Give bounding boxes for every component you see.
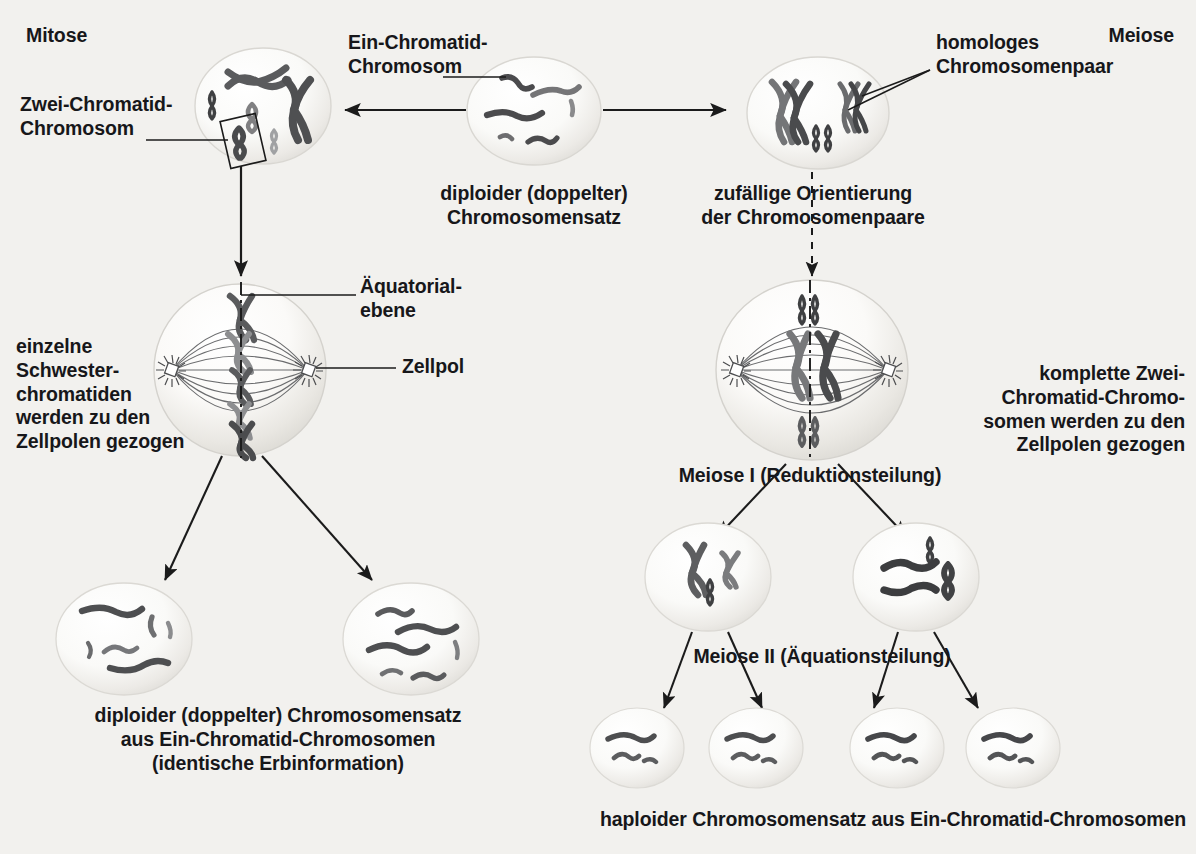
label-einzelne-schwesterchromatiden: einzelne Schwester- chromatiden werden z… [16,335,184,454]
label-homologes-chromosomenpaar: homologes Chromosomenpaar [936,31,1113,79]
label-komplette-zwei-chromatid: komplette Zwei- Chromatid-Chromo- somen … [930,362,1185,457]
arrow-meiosis-ii-a [664,632,692,708]
caption-diploider-satz: diploider (doppelter) Chromosomensatz [424,182,644,230]
label-zellpol: Zellpol [402,355,464,379]
cell-meiosis-i-daughter-right [853,523,979,631]
cell-meiosis-i-daughter-left [645,523,771,631]
cell-mitosis-daughter-right [343,583,479,695]
meiosis-mitosis-diagram-page: Mitose Meiose Zwei-Chromatid- Chromosom … [0,0,1196,854]
label-aequatorialebene: Äquatorial- ebene [360,275,462,323]
arrow-meiosis-ii-d [934,632,978,708]
cell-haploid-3 [850,708,944,788]
arrow-mitosis-to-daughter-right [262,456,372,580]
cell-meiosis-prophase [747,57,889,169]
arrow-mitosis-to-daughter-left [165,456,222,580]
arrow-meiosis-ii-c [874,632,898,708]
cell-haploid-2 [709,708,803,788]
cell-haploid-4 [966,708,1060,788]
caption-zufaellige-orientierung: zufällige Orientierung der Chromosomenpa… [698,182,928,230]
caption-mitose-ergebnis: diploider (doppelter) Chromosomensatz au… [38,704,518,775]
cell-mitosis-prophase [195,48,331,168]
label-meiose-i: Meiose I (Reduktionsteilung) [660,464,960,488]
caption-meiose-ergebnis: haploider Chromosomensatz aus Ein-Chroma… [598,808,1188,832]
cell-mitosis-daughter-left [56,583,192,695]
page-title-meiose: Meiose [1108,24,1174,48]
arrow-meiosis-ii-b [728,632,762,708]
cell-meiosis-metaphase [716,280,908,462]
label-meiose-ii: Meiose II (Äquationsteilung) [672,645,972,669]
label-ein-chromatid-chromosom: Ein-Chromatid- Chromosom [348,31,487,79]
page-title-mitose: Mitose [26,24,87,48]
cell-haploid-1 [590,708,684,788]
label-zwei-chromatid-chromosom: Zwei-Chromatid- Chromosom [20,93,172,141]
